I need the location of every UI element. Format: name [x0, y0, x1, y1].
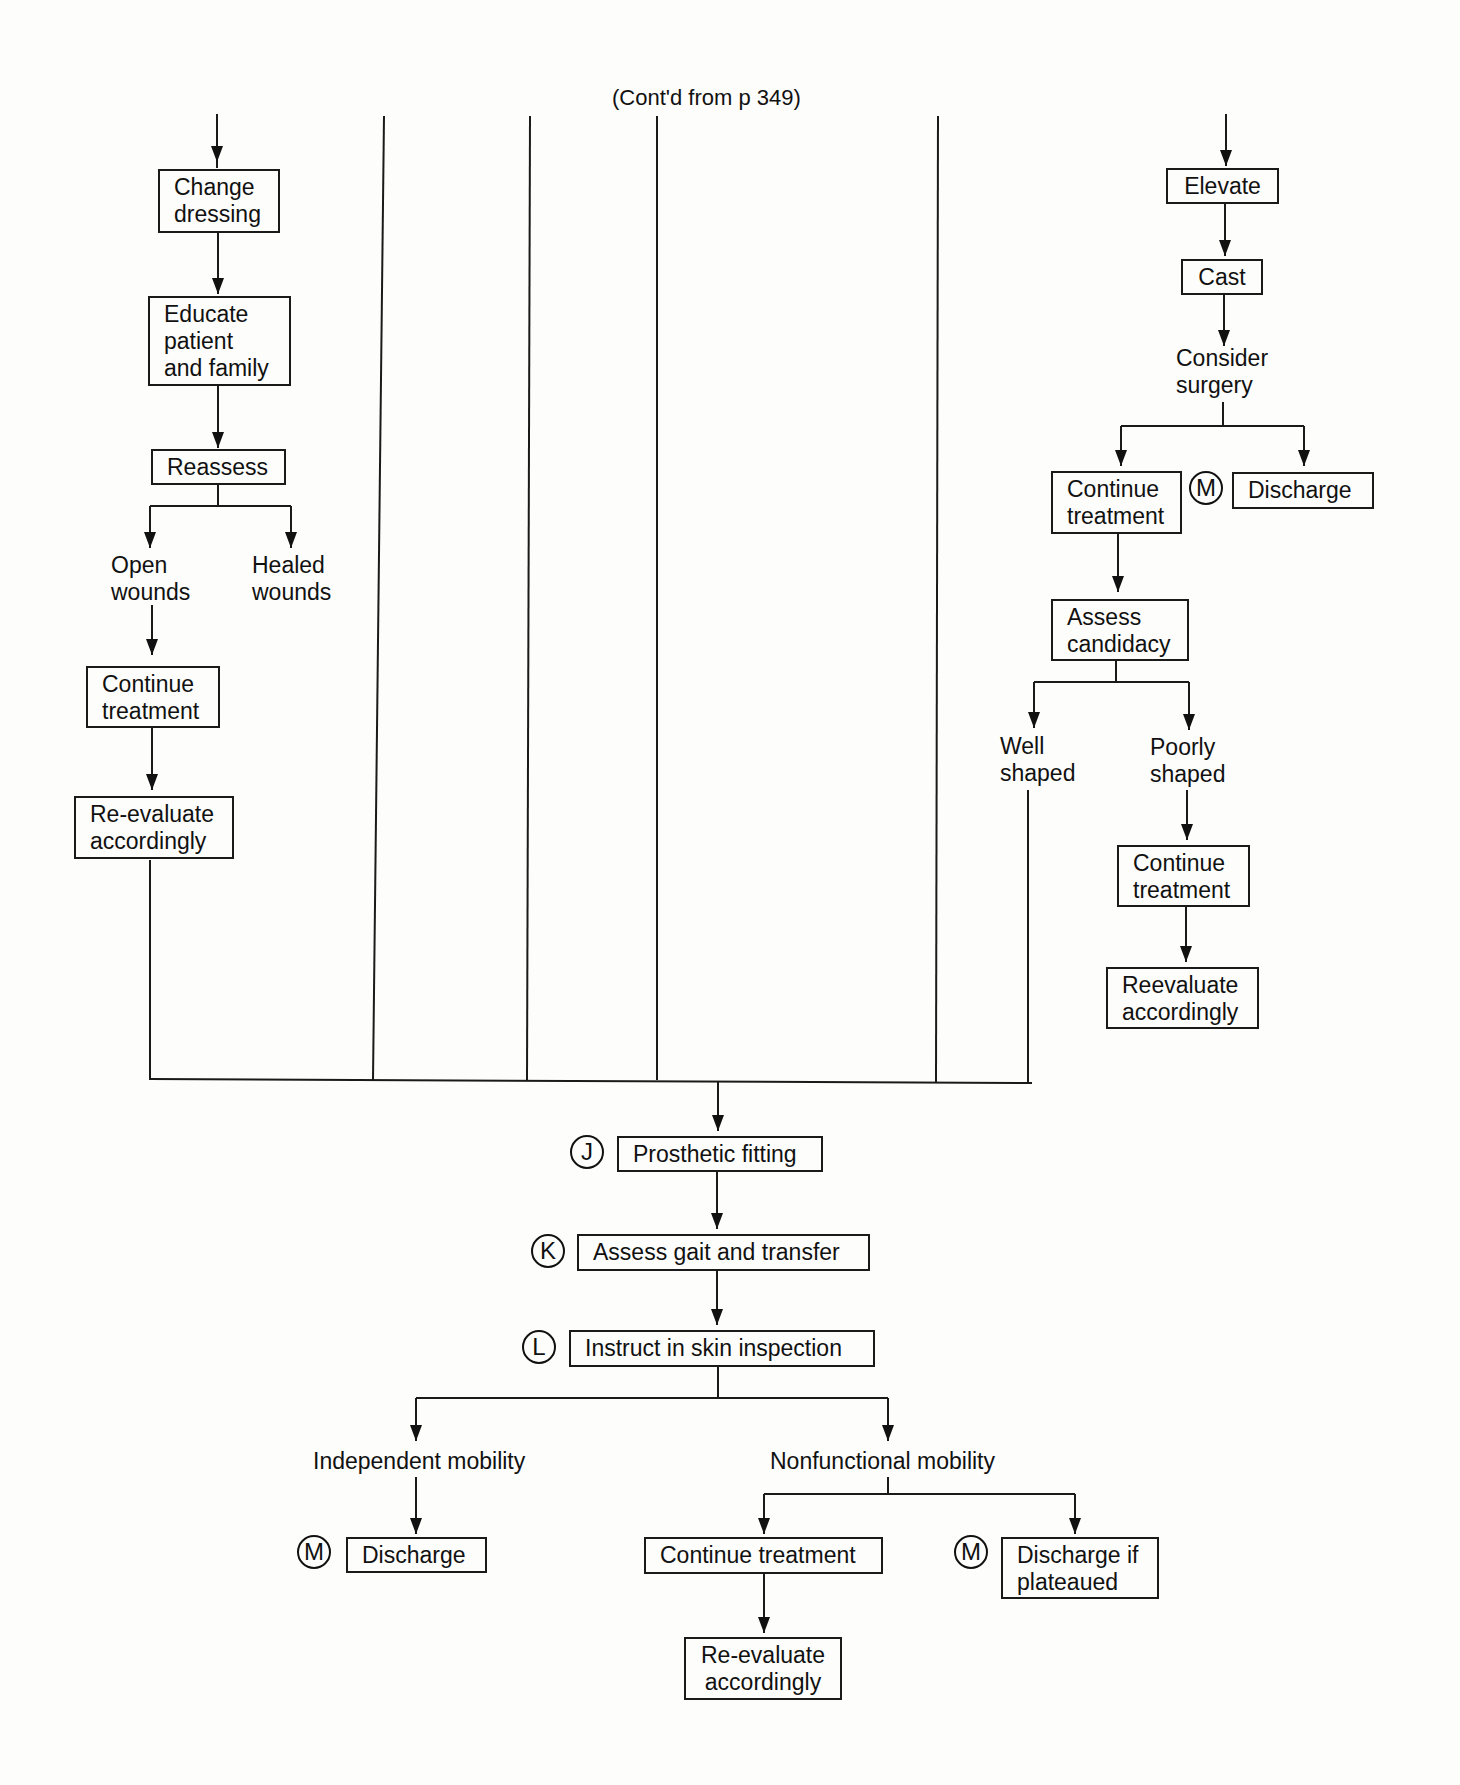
assess-candidacy-box: Assess candidacy	[1051, 599, 1189, 661]
j-marker-icon: J	[570, 1135, 604, 1169]
continue-treatment-box-right-2: Continue treatment	[1117, 845, 1250, 907]
reevaluate-box-bottom: Re-evaluate accordingly	[684, 1637, 842, 1700]
continue-treatment-box-left: Continue treatment	[86, 666, 220, 728]
continue-treatment-box-bottom: Continue treatment	[644, 1537, 883, 1574]
l-marker-icon: L	[522, 1330, 556, 1364]
well-shaped-label: Well shaped	[1000, 733, 1075, 787]
educate-box: Educate patient and family	[148, 296, 291, 386]
elevate-box: Elevate	[1166, 168, 1279, 204]
m-marker-icon: M	[954, 1535, 988, 1569]
prosthetic-fitting-box: Prosthetic fitting	[617, 1136, 823, 1172]
discharge-box-right: Discharge	[1232, 472, 1374, 509]
independent-mobility-label: Independent mobility	[313, 1448, 525, 1475]
change-dressing-box: Change dressing	[158, 169, 280, 233]
m-marker-icon: M	[297, 1535, 331, 1569]
open-wounds-label: Open wounds	[111, 552, 190, 606]
poorly-shaped-label: Poorly shaped	[1150, 734, 1225, 788]
reevaluate-box-right: Reevaluate accordingly	[1106, 967, 1259, 1029]
discharge-box-bottom: Discharge	[346, 1537, 487, 1573]
assess-gait-box: Assess gait and transfer	[577, 1234, 870, 1271]
k-marker-icon: K	[531, 1234, 565, 1268]
m-marker-icon: M	[1189, 471, 1223, 505]
reevaluate-box-left: Re-evaluate accordingly	[74, 796, 234, 859]
discharge-if-plateaued-box: Discharge if plateaued	[1001, 1537, 1159, 1599]
nonfunctional-mobility-label: Nonfunctional mobility	[770, 1448, 995, 1475]
instruct-skin-box: Instruct in skin inspection	[569, 1330, 875, 1367]
consider-surgery-label: Consider surgery	[1176, 345, 1268, 399]
continue-treatment-box-right: Continue treatment	[1051, 471, 1182, 534]
reassess-box: Reassess	[151, 449, 286, 485]
healed-wounds-label: Healed wounds	[252, 552, 331, 606]
continuation-note: (Cont'd from p 349)	[612, 85, 801, 111]
cast-box: Cast	[1181, 259, 1263, 295]
